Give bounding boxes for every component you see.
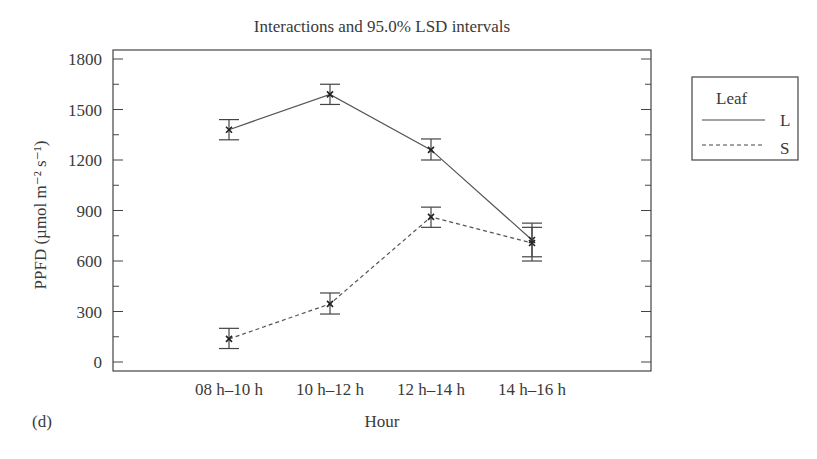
- y-tick-label: 1200: [68, 151, 102, 170]
- series-s: [219, 207, 542, 348]
- legend-label-l: L: [780, 111, 790, 130]
- y-axis: 0300600900120015001800: [68, 50, 651, 372]
- plot-frame: [113, 50, 651, 371]
- legend-label-s: S: [780, 139, 789, 158]
- legend: Leaf L S: [692, 77, 798, 160]
- chart-title: Interactions and 95.0% LSD intervals: [254, 17, 510, 36]
- y-tick-label: 0: [94, 353, 103, 372]
- interaction-chart: Interactions and 95.0% LSD intervals 030…: [0, 0, 817, 459]
- y-tick-label: 900: [77, 202, 103, 221]
- panel-label: (d): [32, 412, 52, 431]
- x-tick-label: 10 h–12 h: [296, 380, 365, 399]
- x-axis: 08 h–10 h10 h–12 h12 h–14 h14 h–16 h: [195, 380, 567, 399]
- legend-title: Leaf: [716, 89, 747, 108]
- y-tick-label: 1500: [68, 101, 102, 120]
- y-axis-label: PPFD (µmol m⁻² s⁻¹): [31, 141, 50, 290]
- x-tick-label: 14 h–16 h: [498, 380, 567, 399]
- x-tick-label: 12 h–14 h: [397, 380, 466, 399]
- y-tick-label: 600: [77, 252, 103, 271]
- y-tick-label: 300: [77, 303, 103, 322]
- series-l: [219, 84, 542, 257]
- y-tick-label: 1800: [68, 50, 102, 69]
- x-axis-label: Hour: [365, 412, 400, 431]
- data-series: [219, 84, 542, 348]
- x-tick-label: 08 h–10 h: [195, 380, 264, 399]
